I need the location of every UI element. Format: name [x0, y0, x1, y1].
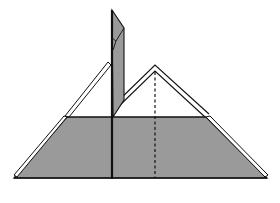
right-triangle-inner-edge	[117, 71, 205, 117]
origami-diagram	[0, 0, 280, 203]
base-trapezoid	[14, 117, 267, 178]
vertical-pole	[112, 10, 124, 117]
left-white-strip	[65, 62, 111, 117]
right-triangle-outer-edge	[115, 65, 209, 114]
